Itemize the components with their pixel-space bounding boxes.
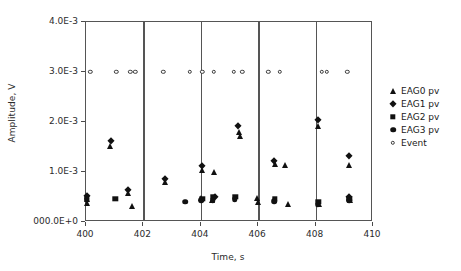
y-tick-label: 000.0E+0 — [33, 216, 78, 226]
y-tick-label: 3.0E-3 — [49, 66, 78, 76]
x-tick-label: 410 — [363, 229, 380, 239]
data-point-circle — [347, 197, 353, 203]
data-point-triangle — [315, 123, 321, 129]
plot-area — [85, 21, 372, 221]
legend-marker-open-circle-icon — [386, 136, 400, 149]
legend-item-event[interactable]: Event — [386, 136, 439, 149]
data-point-circle — [271, 198, 277, 204]
legend-item-eag2-pv[interactable]: EAG2 pv — [386, 110, 439, 123]
gridline-vertical — [201, 22, 202, 220]
data-point-open-circle — [325, 70, 329, 74]
data-point-open-circle — [133, 70, 137, 74]
open-circle-icon — [391, 140, 395, 144]
data-point-triangle — [211, 169, 217, 175]
legend-marker-diamond-icon — [386, 97, 400, 110]
data-point-triangle — [255, 199, 261, 205]
x-tick-mark — [315, 222, 316, 226]
legend-label: EAG1 pv — [401, 99, 439, 109]
legend-label: Event — [401, 138, 427, 148]
data-point-open-circle — [266, 70, 270, 74]
gridline-vertical — [258, 22, 259, 220]
data-point-triangle — [346, 162, 352, 168]
data-point-open-circle — [232, 70, 236, 74]
x-tick-mark — [142, 222, 143, 226]
scatter-chart-figure: Amplitude, V Time, s 000.0E+01.0E-32.0E-… — [0, 0, 461, 271]
circle-icon — [390, 127, 396, 133]
data-point-circle — [199, 197, 205, 203]
data-point-open-circle — [188, 70, 192, 74]
data-point-open-circle — [320, 70, 324, 74]
legend-marker-triangle-icon — [386, 84, 400, 97]
data-point-open-circle — [345, 70, 349, 74]
y-tick-label: 2.0E-3 — [49, 116, 78, 126]
data-point-triangle — [285, 201, 291, 207]
data-point-triangle — [237, 133, 243, 139]
data-point-circle — [182, 199, 188, 205]
legend-item-eag0-pv[interactable]: EAG0 pv — [386, 84, 439, 97]
chart-legend: EAG0 pvEAG1 pvEAG2 pvEAG3 pvEvent — [386, 84, 439, 149]
data-point-circle — [315, 202, 321, 208]
x-tick-mark — [257, 222, 258, 226]
x-tick-label: 404 — [191, 229, 208, 239]
legend-label: EAG3 pv — [401, 125, 439, 135]
data-point-circle — [232, 196, 238, 202]
x-tick-mark — [85, 222, 86, 226]
data-point-square — [113, 196, 118, 201]
gridline-vertical — [143, 22, 144, 220]
x-tick-mark — [200, 222, 201, 226]
data-point-triangle — [282, 162, 288, 168]
data-point-open-circle — [128, 70, 132, 74]
legend-marker-square-icon — [386, 110, 400, 123]
x-tick-mark — [372, 222, 373, 226]
x-tick-label: 408 — [306, 229, 323, 239]
x-axis-title: Time, s — [178, 252, 278, 262]
y-tick-label: 1.0E-3 — [49, 166, 78, 176]
legend-item-eag3-pv[interactable]: EAG3 pv — [386, 123, 439, 136]
legend-marker-circle-icon — [386, 123, 400, 136]
x-tick-label: 402 — [134, 229, 151, 239]
data-point-open-circle — [161, 70, 165, 74]
x-tick-label: 406 — [249, 229, 266, 239]
data-point-open-circle — [88, 70, 92, 74]
data-point-open-circle — [114, 70, 118, 74]
data-point-diamond — [345, 152, 352, 159]
y-axis-title: Amplitude, V — [7, 73, 17, 153]
legend-item-eag1-pv[interactable]: EAG1 pv — [386, 97, 439, 110]
legend-label: EAG2 pv — [401, 112, 439, 122]
diamond-icon — [389, 100, 396, 107]
legend-label: EAG0 pv — [401, 86, 439, 96]
data-point-open-circle — [212, 70, 216, 74]
data-point-circle — [84, 196, 90, 202]
data-point-triangle — [129, 203, 135, 209]
y-tick-label: 4.0E-3 — [49, 16, 78, 26]
square-icon — [390, 114, 395, 119]
x-tick-label: 400 — [76, 229, 93, 239]
data-point-open-circle — [200, 70, 204, 74]
data-point-open-circle — [240, 70, 244, 74]
triangle-icon — [390, 88, 396, 94]
data-point-open-circle — [278, 70, 282, 74]
data-point-circle — [210, 197, 216, 203]
